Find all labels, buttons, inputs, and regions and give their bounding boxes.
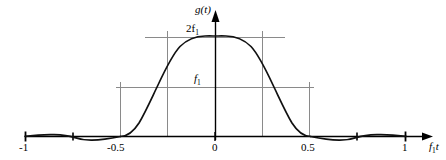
y-axis-label: g(t) [195,4,211,15]
x-tick-label-minus-half: -0.5 [107,142,124,153]
x-tick-label-one: 1 [402,142,408,153]
y-tick-2f1-coefficient: 2f [186,22,195,34]
plot-canvas [0,0,446,160]
x-tick-label-zero: 0 [212,142,218,153]
y-tick-label-f1: f1 [194,73,201,87]
curve-sidelobe-right [311,135,407,141]
y-axis-label-text: g(t) [195,3,211,15]
y-axis-arrow-icon [212,10,220,22]
x-axis-label: f1t [429,141,439,155]
y-axis [212,10,220,140]
y-tick-2f1-subscript: 1 [195,28,199,37]
x-tick-label-minus-one: -1 [19,142,28,153]
x-tick-label-half: 0.5 [301,142,315,153]
figure-sinc-pulse: g(t) 2f1 f1 -1 -0.5 0 0.5 1 f1t [0,0,446,160]
y-tick-label-2f1: 2f1 [186,23,199,37]
x-axis-label-variable: t [436,140,439,152]
y-tick-f1-subscript: 1 [197,78,201,87]
